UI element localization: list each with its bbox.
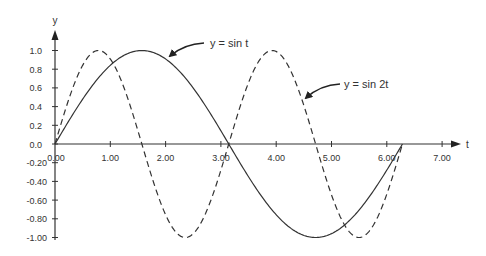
y-tick-label: 0.2 xyxy=(29,121,42,131)
y-axis-arrow-icon xyxy=(52,30,59,40)
y-tick-label: 0.8 xyxy=(29,65,42,75)
x-tick-label: 4.00 xyxy=(267,153,285,163)
x-axis: t 0.001.002.003.004.005.006.007.00 xyxy=(47,139,469,163)
x-tick-label: 5.00 xyxy=(323,153,341,163)
y-tick-label: -0.40 xyxy=(26,177,47,187)
x-tick-label: 0.00 xyxy=(47,153,65,163)
y-tick-label: -0.80 xyxy=(26,214,47,224)
y-tick-label: -1.00 xyxy=(26,233,47,243)
y-ticks: 1.00.80.60.40.20.0-0.20-0.40-0.60-0.80-1… xyxy=(26,46,58,243)
x-tick-label: 6.00 xyxy=(378,153,396,163)
annotation-arrow-sin-2t xyxy=(306,84,340,98)
annotation-arrow-sin-t xyxy=(170,43,204,56)
y-tick-label: 0.6 xyxy=(29,83,42,93)
annotation-sin-t: y = sin t xyxy=(210,37,248,49)
x-tick-label: 3.00 xyxy=(212,153,230,163)
x-tick-label: 1.00 xyxy=(102,153,120,163)
annotation-sin-2t: y = sin 2t xyxy=(344,78,388,90)
chart: y 1.00.80.60.40.20.0-0.20-0.40-0.60-0.80… xyxy=(0,0,486,256)
y-tick-label: 0.4 xyxy=(29,102,42,112)
x-tick-label: 7.00 xyxy=(433,153,451,163)
x-tick-label: 2.00 xyxy=(157,153,175,163)
y-tick-label: 1.0 xyxy=(29,46,42,56)
y-tick-label: -0.60 xyxy=(26,196,47,206)
x-axis-arrow-icon xyxy=(451,141,461,148)
annotations: y = sin t y = sin 2t xyxy=(170,37,388,98)
y-axis-title: y xyxy=(53,15,58,26)
x-axis-title: t xyxy=(466,139,469,150)
y-tick-label: 0.0 xyxy=(29,140,42,150)
y-axis: y 1.00.80.60.40.20.0-0.20-0.40-0.60-0.80… xyxy=(26,15,58,243)
y-tick-label: -0.20 xyxy=(26,158,47,168)
